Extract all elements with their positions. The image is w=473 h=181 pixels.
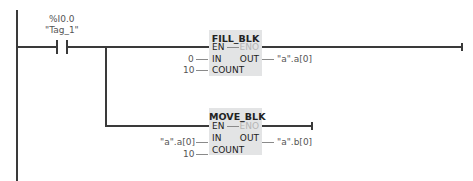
- move-blk-out-value[interactable]: "a".b[0]: [277, 137, 312, 147]
- move-blk-box[interactable]: MOVE_BLK EN IN COUNT ENO OUT: [209, 108, 262, 155]
- fill-blk-pin-out: OUT: [240, 54, 259, 64]
- move-blk-eno-wire: [262, 125, 312, 127]
- fill-blk-count-value[interactable]: 10: [183, 65, 194, 75]
- move-blk-end-marker: [311, 122, 313, 130]
- branch-wire-horizontal: [105, 125, 209, 127]
- fill-blk-box[interactable]: FILL_BLK EN IN COUNT ENO OUT: [209, 30, 262, 76]
- move-blk-out-wire: [262, 142, 274, 143]
- left-power-rail: [16, 10, 18, 181]
- move-blk-count-wire: [196, 154, 208, 155]
- move-blk-pin-eno: ENO: [239, 121, 259, 131]
- move-blk-count-value[interactable]: 10: [183, 149, 194, 159]
- contact-tag: "Tag_1": [45, 25, 79, 35]
- move-blk-pin-out: OUT: [240, 133, 259, 143]
- move-blk-in-wire: [196, 142, 208, 143]
- move-blk-pin-en: EN: [212, 121, 224, 131]
- move-blk-pin-in: IN: [212, 133, 221, 143]
- fill-blk-eno-wire: [262, 46, 462, 48]
- fill-blk-pin-count: COUNT: [212, 65, 244, 75]
- fill-blk-out-wire: [262, 59, 274, 60]
- fill-blk-pin-eno: ENO: [239, 42, 259, 52]
- rung-end-marker: [461, 43, 463, 51]
- fill-blk-out-value[interactable]: "a".a[0]: [277, 54, 312, 64]
- fill-blk-in-wire: [196, 59, 208, 60]
- fill-blk-pin-en: EN: [212, 42, 224, 52]
- fill-blk-en-eno-line: [227, 47, 239, 48]
- fill-blk-pin-in: IN: [212, 54, 221, 64]
- contact-address: %I0.0: [49, 14, 75, 24]
- branch-wire-vertical: [105, 46, 107, 127]
- fill-blk-count-wire: [196, 70, 208, 71]
- fill-blk-in-value[interactable]: 0: [188, 54, 194, 64]
- move-blk-en-eno-line: [227, 126, 239, 127]
- rung-wire-main: [67, 46, 209, 48]
- move-blk-pin-count: COUNT: [212, 145, 244, 155]
- move-blk-in-value[interactable]: "a".a[0]: [160, 137, 195, 147]
- contact-left-bar: [56, 40, 58, 54]
- rung-wire-left: [17, 46, 56, 48]
